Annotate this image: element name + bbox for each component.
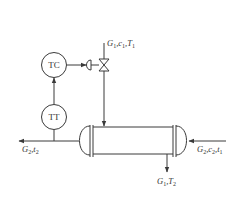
bottom-outlet-label: G1,T2 bbox=[157, 176, 176, 187]
control-valve-icon[interactable] bbox=[99, 59, 109, 71]
exchanger-right-head bbox=[176, 126, 187, 155]
tt-label: TT bbox=[49, 112, 60, 122]
tc-label: TC bbox=[48, 60, 60, 70]
left-outlet-label: G2,t2 bbox=[22, 144, 39, 155]
exchanger-left-head bbox=[80, 126, 91, 155]
process-diagram: TC TT G1,c1,T1 G2,t2 G2,c2,t1 G1,T2 bbox=[0, 0, 238, 201]
top-inlet-label: G1,c1,T1 bbox=[107, 38, 135, 49]
temperature-transmitter[interactable]: TT bbox=[42, 105, 67, 130]
valve-actuator-icon bbox=[87, 60, 100, 70]
right-inlet-label: G2,c2,t1 bbox=[197, 144, 223, 155]
heat-exchanger bbox=[80, 125, 187, 157]
temperature-controller[interactable]: TC bbox=[42, 53, 67, 78]
